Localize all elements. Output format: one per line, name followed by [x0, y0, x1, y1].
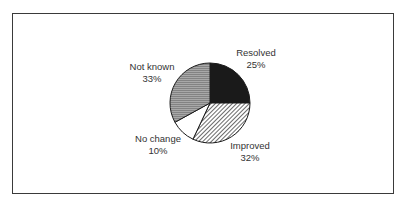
label-not-known-name: Not known [130, 61, 175, 73]
label-not-known: Not known 33% [130, 61, 175, 85]
label-no-change-name: No change [135, 133, 181, 145]
label-improved-name: Improved [230, 140, 270, 152]
label-resolved-pct: 25% [236, 59, 276, 71]
label-improved-pct: 32% [230, 152, 270, 164]
pie-slices [170, 63, 250, 143]
label-resolved: Resolved 25% [236, 47, 276, 71]
pie-chart [0, 0, 409, 205]
label-not-known-pct: 33% [130, 73, 175, 85]
label-no-change: No change 10% [135, 133, 181, 157]
label-improved: Improved 32% [230, 140, 270, 164]
label-no-change-pct: 10% [135, 145, 181, 157]
label-resolved-name: Resolved [236, 47, 276, 59]
